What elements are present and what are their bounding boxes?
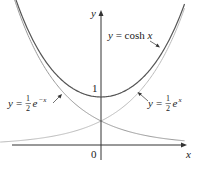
exp-neg-exponent: −x bbox=[39, 96, 48, 104]
exp-neg-den: 2 bbox=[26, 104, 30, 113]
y-axis-arrow-icon bbox=[99, 10, 104, 16]
curve-exp-neg bbox=[14, 0, 185, 141]
exp-neg-eq: = bbox=[16, 97, 22, 109]
y-axis-label: y bbox=[90, 7, 96, 19]
exp-pos-eq: = bbox=[156, 97, 162, 109]
cosh-pointer-arrow-icon bbox=[156, 44, 161, 48]
exp-pos-e: e bbox=[173, 97, 178, 109]
x-axis-label: x bbox=[185, 148, 191, 160]
exp-neg-e: e bbox=[33, 97, 38, 109]
x-axis-arrow-icon bbox=[181, 143, 187, 148]
exp-pos-exponent: x bbox=[178, 96, 183, 104]
exp-pos-num: 1 bbox=[166, 94, 170, 103]
exp-pos-pointer bbox=[140, 94, 148, 101]
exp-pos-label: y = 1 2 e x bbox=[147, 94, 183, 113]
exp-pos-den: 2 bbox=[166, 104, 170, 113]
exp-neg-y: y bbox=[7, 97, 13, 109]
cosh-label: y = cosh x bbox=[107, 29, 153, 41]
exp-pos-y: y bbox=[147, 97, 153, 109]
chart-canvas: y x 0 1 y = cosh x y = 1 2 e −x y = 1 2 … bbox=[0, 0, 203, 170]
y-tick-one-label: 1 bbox=[92, 82, 98, 94]
exp-neg-label: y = 1 2 e −x bbox=[7, 94, 47, 113]
curves bbox=[0, 0, 184, 142]
origin-label: 0 bbox=[91, 148, 97, 160]
exp-neg-num: 1 bbox=[26, 94, 30, 103]
